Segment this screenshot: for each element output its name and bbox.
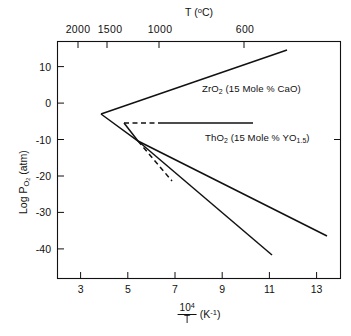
bottom-axis-title: 104 T (K-1) (178, 303, 221, 326)
percent-symbol: % (266, 84, 274, 94)
series-label-tho2-tail: YO (280, 132, 297, 143)
top-axis-title-suffix: C) (202, 6, 213, 18)
bottom-tick-label-7: 7 (172, 284, 178, 295)
left-axis-title-prefix: Log P (17, 187, 29, 214)
left-tick-label-10: 10 (29, 61, 51, 72)
top-axis-title-prefix: T ( (185, 6, 198, 18)
chart-figure: T (oC) 2000 1500 1000 600 10 0 -10 -20 -… (0, 0, 351, 336)
percent-symbol-2: % (272, 133, 280, 143)
bottom-tick-label-11: 11 (264, 284, 275, 295)
left-axis-title-sub: O2 (22, 178, 31, 187)
series-label-zro2-prefix: ZrO (202, 83, 219, 94)
left-tick-label-minus40: -40 (26, 244, 51, 255)
series-label-zro2-body: (15 Mole (223, 83, 267, 94)
top-axis-ticks (78, 42, 244, 49)
series-label-tho2: ThO2 (15 Mole % YO1.5) (205, 133, 310, 144)
top-tick-label-600: 600 (236, 24, 254, 35)
left-axis-title-unit: (atm) (17, 150, 29, 177)
bottom-tick-label-9: 9 (219, 284, 225, 295)
bottom-tick-label-13: 13 (311, 284, 323, 295)
top-axis-title: T (oC) (185, 7, 213, 18)
series-label-tho2-close: ) (306, 132, 309, 143)
series-label-tho2-tail-sub: 1.5 (296, 137, 306, 144)
top-tick-label-1000: 1000 (148, 24, 173, 35)
left-tick-label-minus10: -10 (26, 134, 51, 145)
top-tick-label-1500: 1500 (98, 24, 123, 35)
left-axis-title-sub2: 2 (25, 178, 31, 181)
bottom-tick-label-3: 3 (78, 284, 84, 295)
series-tho2-descending-dashed (138, 141, 172, 181)
plot-frame (58, 42, 341, 279)
top-tick-label-2000: 2000 (66, 24, 91, 35)
series-label-zro2: ZrO2 (15 Mole % CaO) (202, 84, 301, 95)
bottom-axis-unit: (K-1) (197, 309, 221, 320)
series-zro2-upper-line (101, 50, 287, 114)
fraction-numerator-exponent: 4 (191, 301, 195, 310)
left-axis-ticks (58, 67, 65, 249)
series-label-tho2-prefix: ThO (205, 132, 224, 143)
bottom-tick-label-5: 5 (125, 284, 131, 295)
left-tick-label-0: 0 (29, 98, 51, 109)
series-label-tho2-body: (15 Mole (228, 132, 272, 143)
series-label-zro2-tail: CaO) (275, 83, 301, 94)
bottom-axis-ticks (81, 272, 317, 279)
bottom-axis-fraction: 104 T (178, 302, 197, 325)
fraction-numerator: 104 (178, 302, 197, 315)
left-axis-title: Log PO2 (atm) (18, 150, 31, 214)
fraction-denominator: T (178, 315, 197, 326)
